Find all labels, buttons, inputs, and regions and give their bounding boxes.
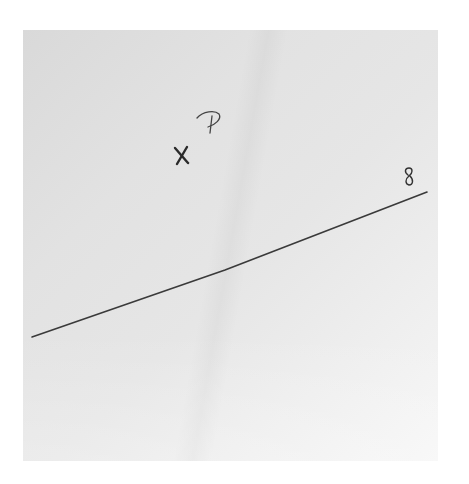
drawing-layer bbox=[0, 0, 469, 484]
line-label-g bbox=[405, 168, 412, 185]
line-g bbox=[32, 192, 427, 337]
point-label-p bbox=[197, 112, 220, 133]
point-marker-x bbox=[175, 147, 188, 164]
